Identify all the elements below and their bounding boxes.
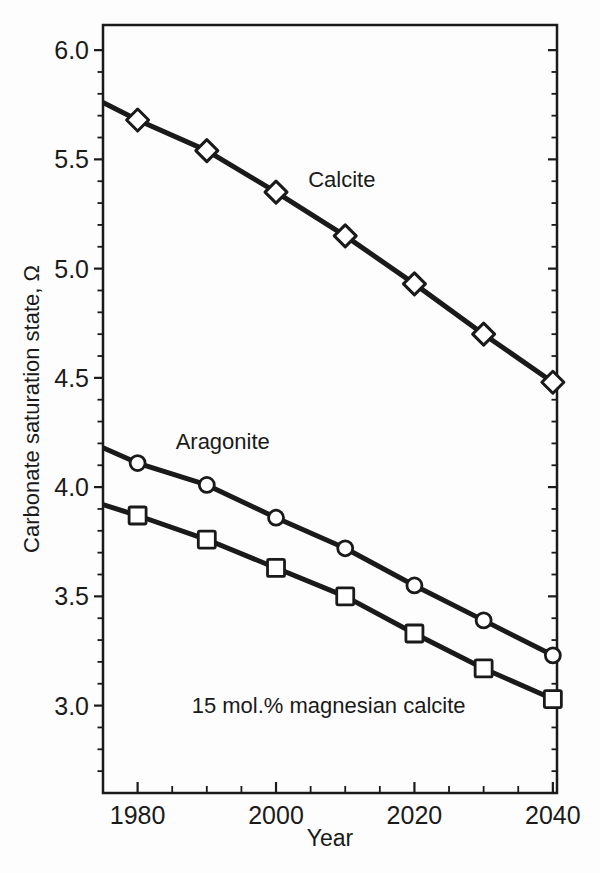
y-axis-label: Carbonate saturation state, Ω [19,265,44,553]
annotation-aragonite: Aragonite [176,429,270,454]
y-tick-label: 6.0 [54,36,89,64]
y-tick-label: 3.5 [54,582,89,610]
marker-circle-aragonite [545,648,560,663]
carbonate-saturation-chart: 3.03.54.04.55.05.56.01980200020202040Cal… [0,0,600,873]
x-axis-label: Year [307,825,354,851]
y-tick-label: 5.0 [54,255,89,283]
x-tick-label: 2040 [525,801,581,829]
marker-circle-aragonite [338,541,353,556]
y-tick-label: 5.5 [54,145,89,173]
marker-square-15-mol-magnesian-calcite [337,588,354,605]
x-tick-label: 2000 [248,801,304,829]
x-tick-label: 1980 [110,801,166,829]
marker-square-15-mol-magnesian-calcite [129,507,146,524]
x-tick-label: 2020 [387,801,443,829]
marker-square-15-mol-magnesian-calcite [268,559,285,576]
marker-square-15-mol-magnesian-calcite [406,625,423,642]
marker-square-15-mol-magnesian-calcite [544,691,561,708]
marker-circle-aragonite [199,477,214,492]
marker-circle-aragonite [130,456,145,471]
marker-circle-aragonite [269,510,284,525]
y-tick-label: 3.0 [54,692,89,720]
marker-circle-aragonite [476,613,491,628]
marker-diamond-calcite [196,140,218,162]
annotation-calcite: Calcite [308,167,375,192]
marker-circle-aragonite [407,578,422,593]
marker-square-15-mol-magnesian-calcite [475,660,492,677]
marker-square-15-mol-magnesian-calcite [198,531,215,548]
figure-canvas: 3.03.54.04.55.05.56.01980200020202040Cal… [0,0,600,873]
annotation-15-mol-magnesian-calcite: 15 mol.% magnesian calcite [192,693,466,718]
y-tick-label: 4.0 [54,473,89,501]
marker-diamond-calcite [127,109,149,131]
y-tick-label: 4.5 [54,364,89,392]
